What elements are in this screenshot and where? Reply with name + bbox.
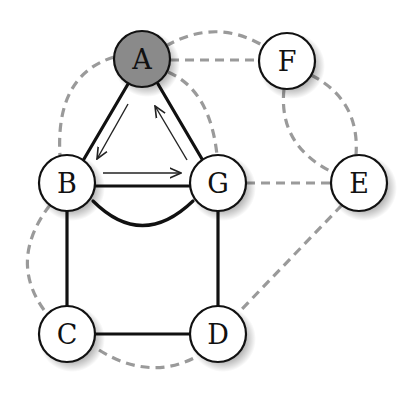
node-label: A xyxy=(131,44,152,75)
edge-f-e-outer xyxy=(311,75,356,155)
arrow-g-to-a xyxy=(155,106,187,160)
edge-b-g-curved xyxy=(93,201,193,226)
node-g: G xyxy=(190,155,256,221)
edge-a-b xyxy=(84,84,128,159)
node-label: C xyxy=(57,319,78,350)
edge-c-d-curved xyxy=(99,350,198,368)
node-b: B xyxy=(39,155,105,221)
graph-diagram: AFBGECD xyxy=(0,0,419,399)
edge-e-d xyxy=(242,205,342,309)
node-label: D xyxy=(207,319,229,350)
node-e: E xyxy=(331,155,397,221)
node-a: A xyxy=(114,31,180,97)
node-c: C xyxy=(39,306,105,372)
node-label: F xyxy=(278,46,297,77)
nodes: AFBGECD xyxy=(39,31,397,372)
node-f: F xyxy=(259,33,325,99)
node-label: E xyxy=(349,168,369,199)
edge-b-c-curved xyxy=(27,205,50,310)
edge-a-b-curved xyxy=(60,57,114,156)
node-d: D xyxy=(190,306,256,372)
edge-f-e-inner xyxy=(283,89,332,172)
node-label: B xyxy=(57,168,77,199)
edge-a-f-curved xyxy=(166,32,262,46)
node-label: G xyxy=(207,168,229,199)
